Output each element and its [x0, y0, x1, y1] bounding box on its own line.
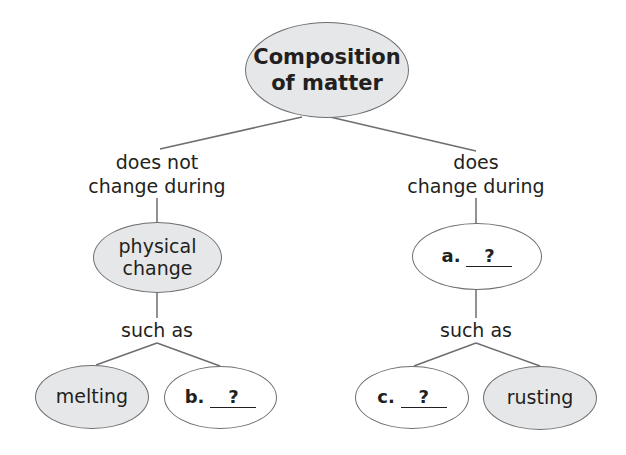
node-b-blank: b.?	[164, 366, 277, 429]
connector-root-left	[160, 117, 302, 149]
connector-suchas-melting	[96, 343, 157, 365]
connector-suchas-c	[414, 343, 476, 366]
blank-prefix: a.	[442, 245, 461, 266]
answer-blank: ?	[401, 387, 447, 408]
connector-suchas-rusting	[476, 343, 540, 366]
left-such-as-label: such as	[107, 318, 207, 342]
root-node-text: Composition of matter	[253, 44, 401, 96]
right-link-label: does change during	[396, 150, 556, 198]
connector-root-right	[330, 117, 476, 151]
blank-prefix: b.	[185, 386, 205, 407]
connector-suchas-b	[157, 343, 220, 366]
root-node-composition-of-matter: Composition of matter	[245, 22, 409, 118]
left-link-label: does not change during	[77, 150, 237, 198]
node-physical-change: physical change	[93, 222, 222, 293]
node-rusting: rusting	[483, 366, 597, 430]
right-such-as-label: such as	[426, 318, 526, 342]
node-c-blank: c.?	[355, 366, 469, 429]
blank-prefix: c.	[377, 386, 395, 407]
node-a-blank: a.?	[412, 223, 542, 290]
answer-blank: ?	[210, 387, 256, 408]
node-melting: melting	[35, 365, 149, 429]
answer-blank: ?	[466, 246, 512, 267]
